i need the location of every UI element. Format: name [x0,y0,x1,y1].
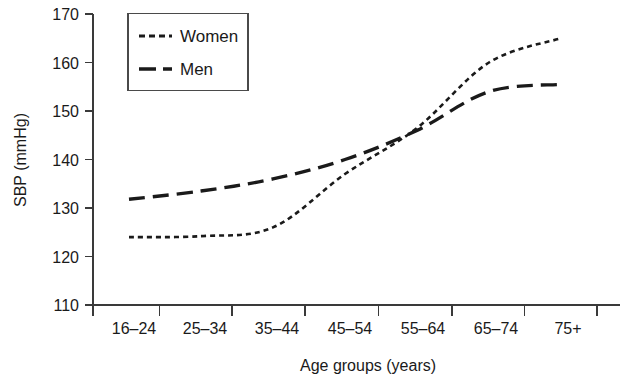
x-axis-tick-labels: 16–24 25–34 35–44 45–54 55–64 65–74 75+ [112,320,582,337]
x-tick-label-2: 35–44 [255,320,300,337]
y-tick-label-150: 150 [52,103,79,120]
legend-label-men: Men [180,60,213,79]
x-tick-label-5: 65–74 [474,320,519,337]
y-axis-title: SBP (mmHg) [12,113,29,207]
x-axis-title: Age groups (years) [300,357,436,374]
x-tick-label-1: 25–34 [183,320,228,337]
x-tick-label-3: 45–54 [328,320,373,337]
chart-container: 170 160 150 140 130 120 110 [0,0,632,391]
y-tick-label-130: 130 [52,200,79,217]
x-tick-label-4: 55–64 [401,320,446,337]
y-tick-label-120: 120 [52,249,79,266]
y-tick-label-160: 160 [52,55,79,72]
y-tick-label-170: 170 [52,6,79,23]
x-tick-label-0: 16–24 [112,320,157,337]
y-tick-label-140: 140 [52,152,79,169]
line-chart: 170 160 150 140 130 120 110 [0,0,632,391]
chart-legend: Women Men [128,14,248,91]
y-tick-label-110: 110 [53,297,79,314]
series-line-men [129,84,561,199]
y-axis-ticks: 170 160 150 140 130 120 110 [52,6,93,314]
x-tick-label-6: 75+ [554,320,581,337]
legend-label-women: Women [180,27,238,46]
x-axis-ticks [93,305,597,316]
